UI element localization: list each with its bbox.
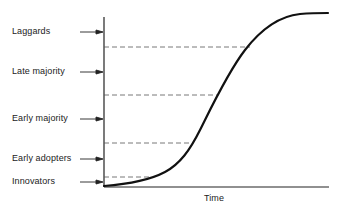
threshold-lines xyxy=(104,47,250,177)
label-laggards: Laggards xyxy=(12,27,50,36)
adoption-s-curve xyxy=(104,13,328,186)
arrow-icon xyxy=(80,70,103,74)
category-arrows xyxy=(80,30,103,184)
label-early-majority: Early majority xyxy=(12,114,68,123)
label-early-adopters: Early adopters xyxy=(12,154,71,163)
arrow-icon xyxy=(80,30,103,34)
x-axis-label: Time xyxy=(204,194,224,203)
label-late-majority: Late majority xyxy=(12,67,65,76)
arrow-icon xyxy=(80,117,103,121)
arrow-icon xyxy=(80,157,103,161)
arrow-icon xyxy=(80,180,103,184)
label-innovators: Innovators xyxy=(12,177,55,186)
